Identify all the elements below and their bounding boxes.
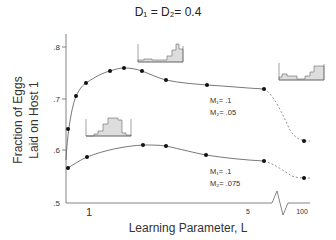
upper-series-label-m1: M₁= .1: [210, 96, 232, 105]
x-axis: [66, 191, 310, 215]
xtick-label: 100: [296, 208, 308, 215]
inset-histogram-top-right: [279, 63, 324, 80]
x-axis-label: Learning Parameter, L: [129, 221, 248, 235]
y-axis-label-line2: Laid on Host 1: [27, 81, 41, 159]
y-axis-label-line1: Fraction of Eggs: [11, 76, 25, 163]
inset-histogram-top-center: [138, 44, 183, 62]
xtick-label: 5: [246, 208, 250, 215]
series-lower-points: [66, 143, 306, 180]
series-upper-dashed: [264, 89, 310, 141]
series-lower-curve: [66, 145, 264, 169]
xtick-label: 1: [86, 206, 92, 218]
ytick-label: .5: [53, 199, 60, 208]
ytick-label: .7: [53, 95, 60, 104]
ytick-label: .6: [53, 146, 60, 155]
inset-histogram-middle-left: [86, 118, 131, 136]
chart-plot: .8 .7 .6 .5 1 5 100 Learning Parameter, …: [0, 0, 336, 240]
series-lower-dashed: [264, 161, 310, 178]
upper-series-label-m2: M₂= .05: [210, 108, 236, 117]
y-ticks: [62, 47, 66, 150]
ytick-label: .8: [53, 43, 60, 52]
lower-series-label-m2: M₂= .075: [210, 179, 240, 188]
lower-series-label-m1: M₁= .1: [210, 167, 232, 176]
